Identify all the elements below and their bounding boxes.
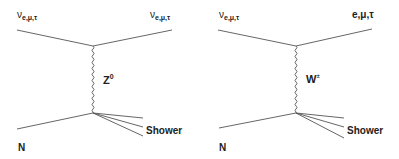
incoming-neutrino-line bbox=[17, 30, 93, 46]
nucleon-line bbox=[219, 113, 296, 128]
diagram-charged-current: νe,μ,τ e,μ,τ W± N Shower bbox=[218, 9, 383, 153]
nucleon-label: N bbox=[219, 142, 226, 153]
nucleon-line bbox=[17, 113, 93, 129]
z-boson-propagator bbox=[92, 46, 94, 113]
shower-label: Shower bbox=[146, 125, 182, 136]
nucleon-label: N bbox=[18, 142, 25, 153]
feynman-diagrams: νe,μ,τ νe,μ,τ Z0 N Shower νe,μ,τ e,μ,τ W… bbox=[0, 0, 399, 159]
outgoing-lepton-line bbox=[296, 29, 372, 46]
incoming-neutrino-label: νe,μ,τ bbox=[219, 9, 240, 22]
shower-label: Shower bbox=[347, 125, 383, 136]
w-boson-propagator bbox=[295, 46, 297, 113]
z-boson-label: Z0 bbox=[103, 73, 114, 86]
incoming-neutrino-line bbox=[218, 30, 296, 46]
diagram-neutral-current: νe,μ,τ νe,μ,τ Z0 N Shower bbox=[17, 9, 182, 153]
outgoing-neutrino-label: νe,μ,τ bbox=[150, 9, 171, 22]
outgoing-neutrino-line bbox=[93, 30, 172, 46]
incoming-neutrino-label: νe,μ,τ bbox=[17, 9, 38, 22]
shower-line-3 bbox=[296, 113, 344, 138]
outgoing-lepton-label: e,μ,τ bbox=[352, 9, 374, 20]
w-boson-label: W± bbox=[306, 73, 320, 85]
